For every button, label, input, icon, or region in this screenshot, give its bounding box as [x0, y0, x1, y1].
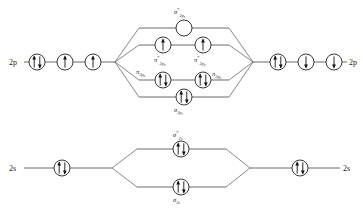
orbital-right-2s-1: [292, 160, 308, 176]
label-pi-star-2py-superscript: *: [197, 55, 200, 60]
mo-diagram: 2p 2p 2s 2s σ*2pz π*2px π*2py π2px π2py …: [0, 0, 363, 211]
corr-left-pi-star: [115, 45, 139, 62]
orbital-sigma-star-2s: [173, 141, 189, 157]
corr-right-sigma-2pz: [229, 62, 253, 97]
label-pi-star-2px-superscript: *: [157, 55, 160, 60]
mo-level-sigma-star-2s: [137, 141, 226, 157]
correlation-lines-2p-right: [229, 28, 253, 97]
label-right-2s: 2s: [343, 164, 350, 173]
label-right-2p: 2p: [349, 58, 357, 67]
corr-right-sigma-2s: [226, 168, 250, 187]
label-pi-2py: π2py: [212, 70, 222, 80]
orbital-left-2p-1: [29, 54, 45, 70]
mo-level-sigma-2s: [137, 179, 226, 195]
orbital-pi-2py: [195, 72, 211, 88]
mo-level-sigma-2pz: [139, 89, 229, 105]
atomic-2p-left-group: [24, 54, 115, 70]
corr-right-pi: [229, 62, 253, 80]
corr-right-pi-star: [229, 45, 253, 62]
correlation-lines-2p-left: [115, 28, 139, 97]
corr-right-sigma-star-2pz: [229, 28, 253, 62]
label-pi-2px: π2px: [136, 68, 146, 78]
label-sigma-2pz-subsubscript: z: [181, 112, 184, 116]
atomic-2s-right-group: [250, 160, 340, 176]
label-pi-star-2px-subsubscript: x: [163, 63, 166, 67]
corr-left-sigma-2s: [112, 168, 137, 187]
corr-right-sigma-star-2s: [226, 149, 250, 168]
label-sigma-2s-subscript: 2s: [176, 200, 180, 205]
label-left-2s: 2s: [9, 164, 16, 173]
orbital-sigma-star-2pz: [176, 20, 192, 36]
label-pi-star-2py-subsubscript: y: [203, 63, 206, 67]
mo-level-sigma-star-2pz: [139, 20, 229, 36]
label-sigma-2pz: σ2pz: [174, 106, 184, 116]
orbital-right-2p-1: [270, 54, 286, 70]
label-sigma-star-2s: σ*2s: [173, 130, 183, 140]
mo-level-pi-star: [139, 37, 229, 53]
label-sigma-star-2pz-superscript: *: [177, 7, 180, 12]
label-sigma-2s: σ2s: [173, 196, 180, 205]
orbital-left-2s-1: [54, 160, 70, 176]
label-sigma-star-2s-superscript: *: [176, 130, 179, 135]
orbital-pi-2px: [155, 72, 171, 88]
corr-left-sigma-star-2s: [112, 149, 137, 168]
corr-left-sigma-star-2pz: [115, 28, 139, 62]
label-pi-2px-subsubscript: x: [143, 74, 146, 78]
label-left-2p: 2p: [9, 58, 17, 67]
label-pi-star-2px: π*2px: [154, 55, 166, 67]
orbital-sigma-2s: [173, 179, 189, 195]
label-sigma-star-2s-subscript: 2s: [178, 136, 182, 141]
label-sigma-star-2pz: σ*2pz: [174, 7, 186, 19]
label-sigma-star-2pz-subsubscript: z: [183, 15, 186, 19]
atomic-2p-right-group: [253, 54, 347, 70]
atomic-2s-left-group: [24, 160, 112, 176]
label-pi-star-2py: π*2py: [194, 55, 206, 67]
orbital-sigma-2pz: [176, 89, 192, 105]
mo-diagram-canvas: 2p 2p 2s 2s σ*2pz π*2px π*2py π2px π2py …: [0, 0, 363, 211]
